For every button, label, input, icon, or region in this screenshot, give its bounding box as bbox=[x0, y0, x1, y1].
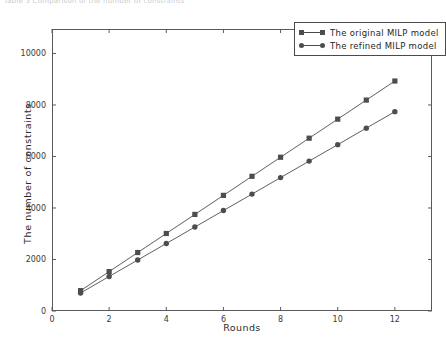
x-tick-label: 0 bbox=[49, 315, 54, 324]
y-tick-label: 10000 bbox=[0, 49, 46, 58]
legend-item-original: The original MILP model bbox=[299, 26, 439, 39]
x-axis-title: Rounds bbox=[223, 322, 260, 333]
x-tick-label: 8 bbox=[278, 315, 283, 324]
x-tick-label: 12 bbox=[390, 315, 400, 324]
x-tick-label: 4 bbox=[164, 315, 169, 324]
x-tick-label: 2 bbox=[107, 315, 112, 324]
legend-item-refined: The refined MILP model bbox=[299, 39, 439, 52]
plot-area bbox=[52, 29, 432, 311]
chart-legend: The original MILP model The refined MILP… bbox=[294, 22, 446, 56]
legend-swatch-square-icon bbox=[299, 27, 325, 38]
legend-swatch-circle-icon bbox=[299, 40, 325, 51]
clipped-caption: Table 5 Comparison of the number of cons… bbox=[4, 0, 304, 6]
legend-label-refined: The refined MILP model bbox=[330, 41, 437, 51]
legend-label-original: The original MILP model bbox=[330, 28, 439, 38]
y-tick-label: 0 bbox=[0, 307, 46, 316]
chart-figure: Table 5 Comparison of the number of cons… bbox=[0, 0, 446, 345]
y-axis-title: The number of constraints bbox=[22, 84, 33, 264]
x-tick-label: 10 bbox=[333, 315, 343, 324]
